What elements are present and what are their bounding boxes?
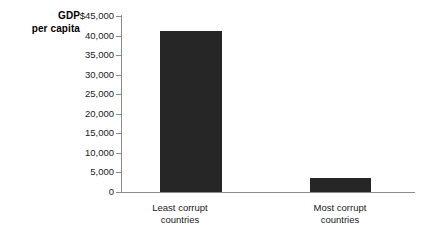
y-axis-tick [116, 94, 121, 95]
y-axis-tick [116, 75, 121, 76]
x-axis-label-least-corrupt: Least corrupt countries [130, 202, 230, 226]
x-axis-line [121, 192, 415, 193]
x-axis-label-line-2: countries [290, 214, 390, 226]
y-tick-label: 5,000 [54, 167, 114, 177]
y-tick-label: 30,000 [54, 70, 114, 80]
y-tick-label: 20,000 [54, 109, 114, 119]
y-axis-tick [116, 55, 121, 56]
x-axis-label-most-corrupt: Most corrupt countries [290, 202, 390, 226]
y-axis-tick [116, 16, 121, 17]
plot-area [121, 16, 415, 192]
bar-most-corrupt-countries [310, 178, 371, 192]
y-axis-tick [116, 153, 121, 154]
bar-chart: GDP per capita $45,000 40,000 35,000 30,… [0, 0, 425, 246]
x-axis-label-line-1: Most corrupt [290, 202, 390, 214]
y-axis-tick [116, 36, 121, 37]
x-axis-label-line-2: countries [130, 214, 230, 226]
y-axis-tick-labels: $45,000 40,000 35,000 30,000 25,000 20,0… [53, 16, 114, 192]
x-axis-label-line-1: Least corrupt [130, 202, 230, 214]
y-tick-label: 0 [54, 187, 114, 197]
y-tick-label: $45,000 [54, 11, 114, 21]
bar-least-corrupt-countries [160, 31, 222, 192]
y-axis-tick [116, 114, 121, 115]
y-axis-tick [116, 192, 121, 193]
y-tick-label: 25,000 [54, 89, 114, 99]
y-tick-label: 35,000 [54, 50, 114, 60]
y-tick-label: 40,000 [54, 31, 114, 41]
y-axis-tick [116, 172, 121, 173]
y-tick-label: 15,000 [54, 128, 114, 138]
y-axis-tick [116, 133, 121, 134]
y-tick-label: 10,000 [54, 148, 114, 158]
